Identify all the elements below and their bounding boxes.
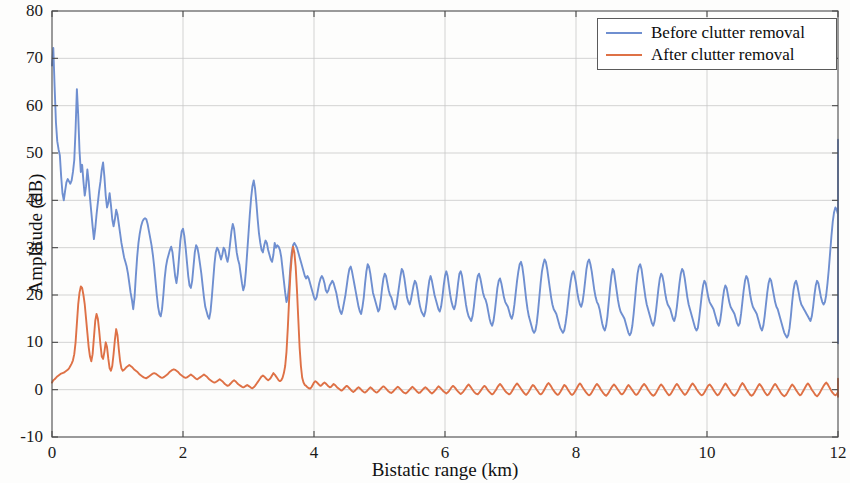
y-tick-label: 70 — [0, 48, 43, 68]
figure-container: 80706050403020100-10 024681012 Amplitude… — [0, 0, 850, 483]
x-axis-label: Bistatic range (km) — [52, 459, 838, 481]
chart-canvas — [0, 0, 850, 483]
legend-color-swatch-after — [606, 54, 642, 56]
y-tick-label: -10 — [0, 427, 43, 447]
legend-item-before: Before clutter removal — [606, 22, 830, 44]
y-tick-label: 80 — [0, 1, 43, 21]
y-tick-label: 60 — [0, 96, 43, 116]
y-tick-label: 10 — [0, 332, 43, 352]
legend-label-before: Before clutter removal — [651, 23, 805, 43]
chart-legend: Before clutter removal After clutter rem… — [597, 18, 837, 70]
legend-label-after: After clutter removal — [651, 45, 795, 65]
y-tick-label: 0 — [0, 380, 43, 400]
legend-item-after: After clutter removal — [606, 44, 830, 66]
legend-color-swatch-before — [606, 32, 642, 34]
grid-lines — [52, 11, 838, 437]
y-axis-label: Amplitude (dB) — [25, 144, 47, 324]
